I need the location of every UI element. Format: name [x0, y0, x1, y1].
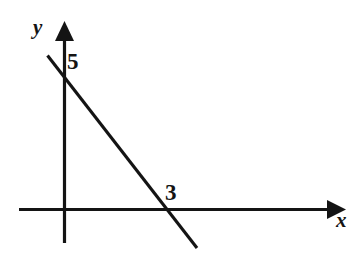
line-graph-figure: y x 5 3: [0, 0, 362, 267]
plotted-line: [48, 56, 198, 249]
y-intercept-label: 5: [67, 50, 79, 73]
x-intercept-label: 3: [165, 181, 177, 204]
x-axis-label: x: [336, 210, 347, 231]
y-axis-arrowhead: [55, 21, 74, 41]
graph-canvas: [0, 0, 362, 267]
y-axis-label: y: [33, 17, 42, 38]
